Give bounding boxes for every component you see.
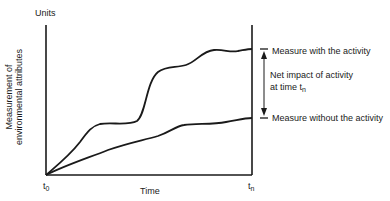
y-axis-title: Measurement of environmental attributes [4, 42, 24, 152]
impact-diagram [0, 0, 390, 201]
y-axis-unit: Units [35, 8, 56, 18]
label-with-activity: Measure with the activity [272, 46, 371, 56]
label-without-activity: Measure without the activity [272, 113, 383, 123]
x-end-label: tn [248, 181, 254, 194]
x-start-label: t0 [43, 181, 49, 194]
label-net-impact-2: at time tn [270, 82, 306, 95]
curve-with-activity [46, 49, 252, 175]
label-net-impact-1: Net impact of activity [270, 70, 353, 80]
net-impact-arrow [260, 49, 268, 118]
x-axis-title: Time [140, 186, 160, 196]
